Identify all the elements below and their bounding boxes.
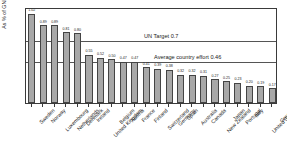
bar-slot: 0.47: [131, 9, 138, 103]
bar: [120, 62, 127, 103]
x-tick-mark: [237, 104, 238, 107]
bar-value-label: 0.20: [246, 81, 253, 85]
bar-slot: 0.25: [223, 9, 230, 103]
bar: [177, 75, 184, 103]
y-axis-title: As % of GNI: [1, 0, 11, 40]
bar-slot: 0.32: [177, 9, 184, 103]
bar: [246, 86, 253, 103]
x-tick-mark: [99, 104, 100, 107]
bars-layer: 1.020.890.890.810.800.550.520.500.470.47…: [26, 9, 276, 103]
bar: [143, 67, 150, 103]
x-tick-mark: [168, 104, 169, 107]
bar: [257, 86, 264, 103]
bar-value-label: 0.41: [143, 63, 150, 67]
bar-value-label: 0.27: [211, 75, 218, 79]
x-tick-mark: [248, 104, 249, 107]
bar-slot: 0.80: [74, 9, 81, 103]
bar: [223, 81, 230, 103]
x-tick-mark: [180, 104, 181, 107]
bar-slot: 0.41: [143, 9, 150, 103]
bar-value-label: 0.55: [85, 50, 92, 54]
bar-slot: 0.55: [85, 9, 92, 103]
bar: [211, 79, 218, 103]
bar-slot: 0.38: [166, 9, 173, 103]
x-tick-mark: [271, 104, 272, 107]
bar: [131, 62, 138, 103]
x-tick-mark: [42, 104, 43, 107]
bar: [269, 88, 276, 103]
bar-value-label: 0.17: [269, 84, 276, 88]
bar-value-label: 0.39: [154, 64, 161, 68]
bar-slot: 0.89: [40, 9, 47, 103]
bar-chart: As % of GNI 0.00.10.20.30.40.50.60.70.80…: [0, 0, 287, 148]
x-tick-mark: [31, 104, 32, 107]
bar-value-label: 0.81: [63, 28, 70, 32]
x-tick-mark: [54, 104, 55, 107]
bar-slot: 0.20: [246, 9, 253, 103]
bar-slot: 0.52: [97, 9, 104, 103]
bar-slot: 0.89: [51, 9, 58, 103]
bar-value-label: 0.89: [40, 21, 47, 25]
x-tick-mark: [214, 104, 215, 107]
plot-area: 0.00.10.20.30.40.50.60.70.80.91.01.1 UN …: [25, 8, 277, 104]
bar-value-label: 1.02: [28, 9, 35, 13]
bar-value-label: 0.47: [120, 57, 127, 61]
bar-slot: 0.47: [120, 9, 127, 103]
bar: [154, 69, 161, 103]
bar: [40, 25, 47, 103]
x-tick-mark: [145, 104, 146, 107]
bar-slot: 0.31: [200, 9, 207, 103]
bar-value-label: 0.80: [74, 29, 81, 33]
x-tick-mark: [203, 104, 204, 107]
bar-value-label: 0.47: [131, 57, 138, 61]
bar: [234, 83, 241, 103]
bar-slot: 0.32: [189, 9, 196, 103]
bar-value-label: 0.25: [223, 77, 230, 81]
x-axis-labels: SwedenNorwayLuxembourgNetherlandsDenmark…: [25, 104, 277, 148]
bar-slot: 0.23: [234, 9, 241, 103]
x-tick-mark: [191, 104, 192, 107]
bar-slot: 0.50: [108, 9, 115, 103]
x-tick-mark: [122, 104, 123, 107]
bar: [189, 75, 196, 103]
bar: [166, 70, 173, 103]
bar-value-label: 0.38: [166, 65, 173, 69]
x-tick-mark: [88, 104, 89, 107]
bar-value-label: 0.32: [177, 70, 184, 74]
x-tick-mark: [111, 104, 112, 107]
x-tick-mark: [65, 104, 66, 107]
bar-value-label: 0.23: [234, 78, 241, 82]
bar: [63, 32, 70, 103]
bar-value-label: 0.31: [200, 71, 207, 75]
bar: [97, 58, 104, 103]
bar-slot: 1.02: [28, 9, 35, 103]
bar: [200, 76, 207, 103]
bar-slot: 0.17: [269, 9, 276, 103]
x-tick-mark: [260, 104, 261, 107]
bar: [85, 55, 92, 103]
x-tick-mark: [77, 104, 78, 107]
bar-slot: 0.19: [257, 9, 264, 103]
bar-value-label: 0.50: [108, 55, 115, 59]
bar: [74, 33, 81, 103]
bar-value-label: 0.52: [97, 53, 104, 57]
bar-slot: 0.39: [154, 9, 161, 103]
x-tick-mark: [134, 104, 135, 107]
bar: [28, 14, 35, 103]
bar-slot: 0.81: [63, 9, 70, 103]
bar-value-label: 0.89: [51, 21, 58, 25]
x-tick-mark: [225, 104, 226, 107]
bar: [108, 59, 115, 103]
bar-value-label: 0.32: [189, 70, 196, 74]
bar: [51, 25, 58, 103]
bar-slot: 0.27: [211, 9, 218, 103]
x-tick-mark: [157, 104, 158, 107]
bar-value-label: 0.19: [257, 82, 264, 86]
